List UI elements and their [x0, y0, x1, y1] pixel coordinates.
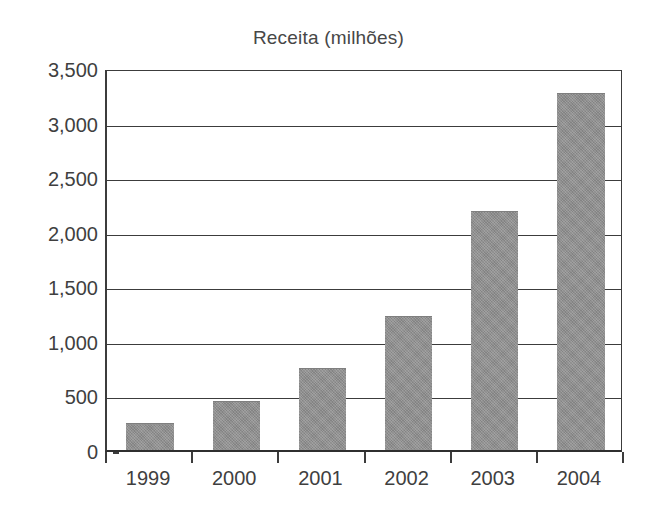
x-axis-tick-mark	[364, 452, 366, 463]
y-axis-tick-label: 2,500	[20, 169, 98, 189]
gridline-3000	[107, 126, 621, 127]
x-axis-tick-mark	[622, 452, 624, 463]
y-axis-tick-label: 3,000	[20, 115, 98, 135]
x-axis-tick-mark	[191, 452, 193, 463]
x-axis-tick-mark	[536, 452, 538, 463]
bar-2002	[385, 316, 432, 450]
x-axis-tick-label: 2000	[191, 466, 277, 490]
y-axis-tick-mark	[113, 452, 119, 454]
y-axis-tick-label: 0	[20, 442, 98, 462]
gridline-2000	[107, 235, 621, 236]
bar-1999	[126, 423, 173, 450]
y-axis-tick-label: 2,000	[20, 224, 98, 244]
x-axis-tick-label: 2002	[364, 466, 450, 490]
bar-2000	[213, 401, 260, 450]
x-axis-tick-label: 2003	[450, 466, 536, 490]
revenue-bar-chart: Receita (milhões) 05001,0001,5002,0002,5…	[0, 0, 657, 510]
x-axis-tick-label: 2004	[536, 466, 622, 490]
bar-2004	[557, 93, 604, 450]
y-axis-tick-label: 1,500	[20, 278, 98, 298]
bar-2001	[299, 368, 346, 450]
x-axis-tick-label: 2001	[277, 466, 363, 490]
y-axis-tick-label: 3,500	[20, 60, 98, 80]
y-axis-tick-label: 500	[20, 387, 98, 407]
x-axis-tick-mark	[105, 452, 107, 463]
gridline-500	[107, 398, 621, 399]
x-axis-tick-mark	[277, 452, 279, 463]
y-axis-tick-label: 1,000	[20, 333, 98, 353]
x-axis-tick-label: 1999	[105, 466, 191, 490]
chart-title: Receita (milhões)	[0, 27, 657, 49]
y-axis-labels: 05001,0001,5002,0002,5003,0003,500	[14, 70, 98, 452]
gridline-1500	[107, 289, 621, 290]
plot-area	[105, 70, 622, 452]
gridline-2500	[107, 180, 621, 181]
x-axis-tick-mark	[450, 452, 452, 463]
gridline-1000	[107, 344, 621, 345]
bar-2003	[471, 211, 518, 450]
